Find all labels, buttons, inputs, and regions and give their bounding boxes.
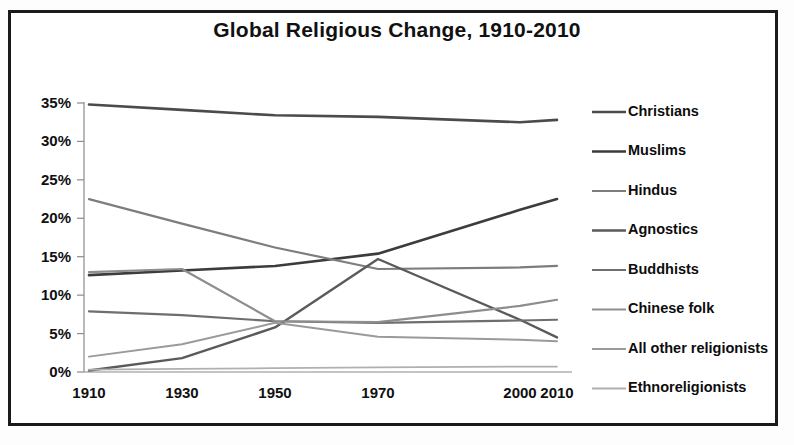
y-axis-tick-label: 0%: [49, 363, 71, 380]
y-axis-tick-label: 35%: [41, 94, 71, 111]
legend-item-label: Ethnoreligionists: [628, 379, 746, 395]
legend-item-label: Agnostics: [628, 221, 698, 237]
chart-legend: ChristiansMuslimsHindusAgnosticsBuddhist…: [592, 103, 768, 396]
y-axis-tick-label: 25%: [41, 171, 71, 188]
x-axis-tick-label: 1970: [361, 384, 394, 401]
series-line: [89, 199, 557, 275]
x-axis-tick-label: 1930: [165, 384, 198, 401]
y-axis-tick-label: 10%: [41, 286, 71, 303]
series-line: [89, 199, 557, 269]
legend-item-label: Muslims: [628, 142, 686, 158]
x-axis: 191019301950197020002010: [72, 372, 573, 401]
legend-item-label: Buddhists: [628, 261, 699, 277]
series-line: [89, 105, 557, 123]
y-axis-tick-label: 20%: [41, 209, 71, 226]
x-axis-tick-label: 1950: [258, 384, 291, 401]
legend-item-label: Chinese folk: [628, 300, 715, 316]
line-chart-svg: 0%5%10%15%20%25%30%35% 19101930195019702…: [0, 0, 794, 445]
y-axis: 0%5%10%15%20%25%30%35%: [41, 94, 84, 380]
series-lines: [89, 105, 557, 371]
x-axis-tick-label: 1910: [72, 384, 105, 401]
y-axis-tick-label: 5%: [49, 325, 71, 342]
series-line: [89, 323, 557, 357]
legend-item-label: Christians: [628, 103, 699, 119]
legend-item-label: Hindus: [628, 182, 677, 198]
x-axis-tick-label: 2010: [540, 384, 573, 401]
chart-image: Global Religious Change, 1910-2010 0%5%1…: [0, 0, 794, 445]
series-line: [89, 367, 557, 370]
x-axis-tick-label: 2000: [503, 384, 536, 401]
legend-item-label: All other religionists: [628, 340, 768, 356]
plot-area: 0%5%10%15%20%25%30%35% 19101930195019702…: [0, 0, 794, 445]
y-axis-tick-label: 15%: [41, 248, 71, 265]
y-axis-tick-label: 30%: [41, 132, 71, 149]
